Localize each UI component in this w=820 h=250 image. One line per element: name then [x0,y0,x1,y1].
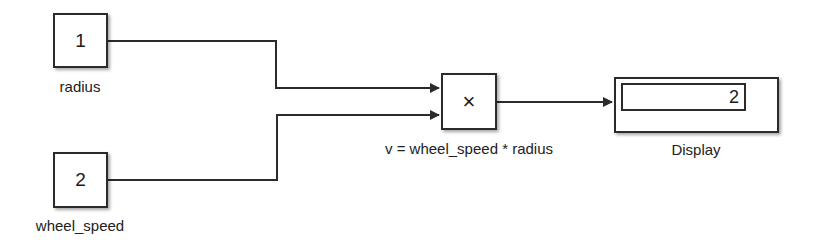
block-label-radius[interactable]: radius [60,78,101,95]
block-label-wheel-speed[interactable]: wheel_speed [36,217,124,234]
inport-block-radius[interactable]: 1 [53,13,108,68]
display-block[interactable]: 2 [614,77,779,133]
block-label-product[interactable]: v = wheel_speed * radius [385,140,553,157]
display-value: 2 [729,87,739,107]
inport-number: 1 [75,30,86,52]
inport-number: 2 [75,169,86,191]
multiply-icon: × [463,89,476,115]
inport-block-wheel-speed[interactable]: 2 [53,152,108,208]
product-block[interactable]: × [441,73,497,130]
display-value-field: 2 [621,83,746,111]
model-canvas: 1 radius 2 wheel_speed × v = wheel_speed… [0,0,820,250]
signal-line-radius[interactable] [108,41,439,88]
block-label-display[interactable]: Display [671,141,720,158]
